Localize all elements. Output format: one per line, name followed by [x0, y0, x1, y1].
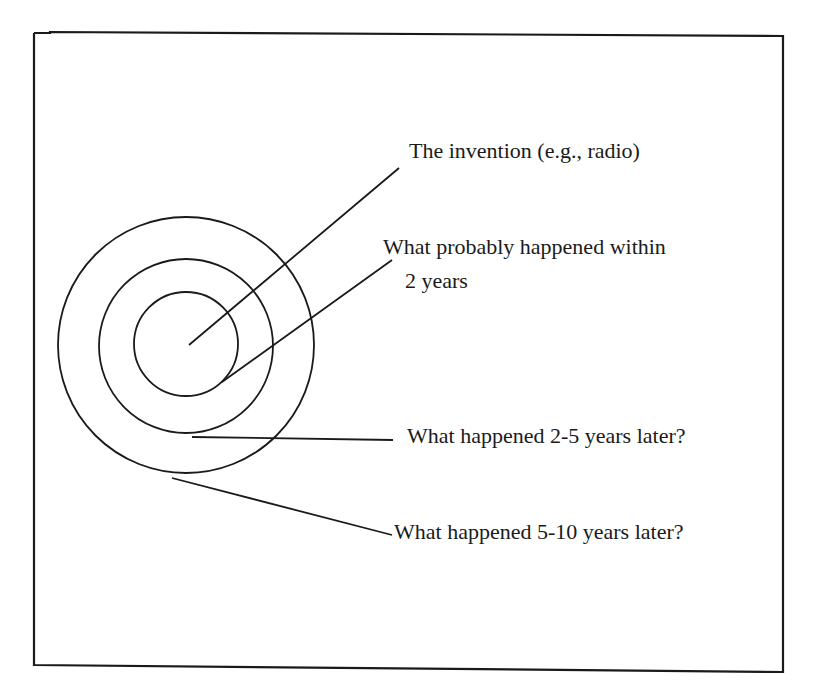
label-within-2-years-line1: What probably happened within	[383, 236, 666, 258]
leader-line-invention	[189, 168, 399, 345]
middle-ring-2-5-years	[99, 259, 273, 433]
label-2-5-years: What happened 2-5 years later?	[407, 425, 686, 447]
leader-line-2-5-years	[192, 437, 393, 440]
label-invention: The invention (e.g., radio)	[409, 140, 640, 162]
leader-line-5-10-years	[172, 478, 392, 535]
frame-border	[34, 32, 783, 672]
label-within-2-years-line2: 2 years	[405, 270, 468, 292]
outer-ring-5-10-years	[58, 217, 314, 473]
leader-line-within-2-years	[222, 260, 392, 382]
diagram-canvas	[0, 0, 816, 698]
label-5-10-years: What happened 5-10 years later?	[394, 521, 684, 543]
inner-ring-within-2-years	[134, 292, 238, 396]
